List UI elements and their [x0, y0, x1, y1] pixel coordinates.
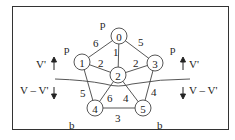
node-4-label: 4	[92, 103, 98, 115]
tag-node-4: b	[69, 119, 75, 131]
tag-node-0: p	[100, 18, 106, 30]
node-0-label: 0	[116, 31, 122, 43]
tag-node-3: p	[170, 43, 176, 55]
partition-lower-right-label: V – V'	[189, 84, 217, 96]
node-5-label: 5	[140, 103, 146, 115]
weight-1-2: 2	[98, 57, 104, 69]
weight-1-4: 5	[80, 87, 86, 99]
weight-3-5: 4	[151, 86, 157, 98]
tag-node-5: b	[157, 119, 163, 131]
weight-0-1: 6	[93, 37, 99, 49]
tag-node-1: p	[64, 43, 70, 55]
partition-lower-left-label: V – V'	[20, 84, 48, 96]
weight-2-4: 6	[107, 92, 113, 104]
weight-2-5: 4	[123, 92, 129, 104]
weight-3-2: 2	[133, 57, 139, 69]
weight-0-3: 5	[138, 36, 144, 48]
weight-0-2: 1	[113, 46, 119, 58]
node-2-label: 2	[115, 70, 121, 82]
weight-4-5: 3	[115, 112, 121, 124]
partition-upper-right-label: V'	[189, 58, 199, 70]
node-1-label: 1	[79, 57, 85, 69]
node-3-label: 3	[152, 58, 158, 70]
graph-cut-diagram: 0 1 2 3 4 5 6 1 5 2 2 5 6 4 4 3 p p p b …	[0, 0, 235, 140]
partition-upper-left-label: V'	[36, 58, 46, 70]
